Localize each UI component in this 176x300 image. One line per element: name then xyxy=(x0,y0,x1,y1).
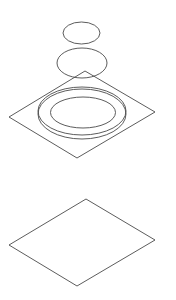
lower-plate-rhombus xyxy=(9,199,155,286)
upper-plate-rhombus xyxy=(9,71,155,158)
exploded-diagram xyxy=(0,0,176,300)
top-small-disc-ellipse xyxy=(63,22,100,44)
ring-base-lower-ellipse xyxy=(38,89,126,139)
middle-disc-ellipse xyxy=(57,48,107,78)
ring-inner-ellipse xyxy=(51,97,116,128)
